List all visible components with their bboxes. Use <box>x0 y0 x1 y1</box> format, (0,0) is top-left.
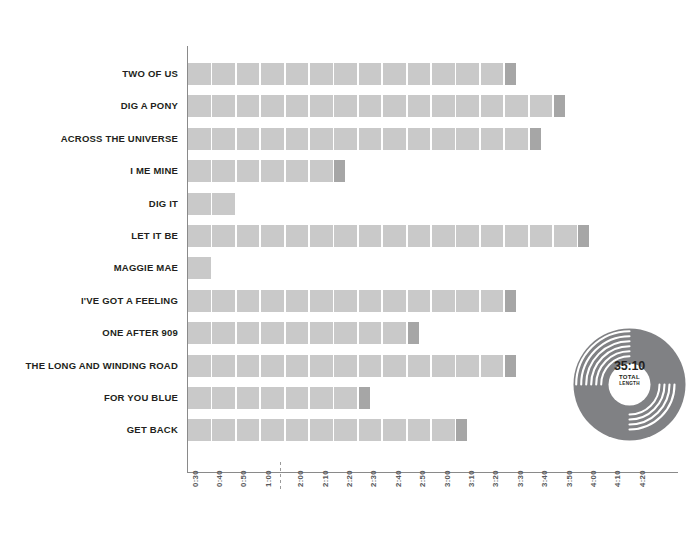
bar-segment <box>188 63 211 85</box>
bar-segment <box>310 225 333 247</box>
bar-segment <box>530 95 553 117</box>
bar-segment <box>481 290 504 312</box>
bar-segment <box>286 225 309 247</box>
bar-segment <box>456 128 479 150</box>
x-tick-label: 3:50 <box>565 477 574 487</box>
x-axis-break-marker <box>280 462 281 492</box>
category-label: DIG A PONY <box>0 95 178 117</box>
x-tick-label: 0:30 <box>191 477 200 487</box>
bar-segment <box>310 387 333 409</box>
x-tick-label: 2:40 <box>394 477 403 487</box>
bar-segment <box>188 95 211 117</box>
vinyl-center-label <box>609 364 651 406</box>
bar-segment <box>530 225 553 247</box>
bar-segment <box>505 128 528 150</box>
bar-segment <box>310 322 333 344</box>
bar-segment <box>408 355 431 377</box>
bar-segment <box>456 290 479 312</box>
bar-segment <box>286 322 309 344</box>
x-tick-label: 1:00 <box>264 477 273 487</box>
bar-segment <box>456 95 479 117</box>
bar-segment <box>212 128 235 150</box>
bar-segment <box>481 95 504 117</box>
bar-segment <box>408 290 431 312</box>
x-tick-label: 3:00 <box>443 477 452 487</box>
bar-segment <box>408 128 431 150</box>
bar-segment <box>212 225 235 247</box>
bar-segment <box>237 419 260 441</box>
chart-canvas: TWO OF USDIG A PONYACROSS THE UNIVERSEI … <box>0 0 698 536</box>
x-tick-label: 2:20 <box>345 477 354 487</box>
category-label: I'VE GOT A FEELING <box>0 290 178 312</box>
bar-segment-partial <box>554 95 565 117</box>
bar-segment <box>383 128 406 150</box>
bar-segment <box>359 225 382 247</box>
x-tick-label: 3:10 <box>467 477 476 487</box>
bar <box>188 193 237 215</box>
bar-segment <box>188 193 211 215</box>
bar-segment <box>383 95 406 117</box>
bar <box>188 355 516 377</box>
bar-segment <box>188 355 211 377</box>
bar-segment <box>286 63 309 85</box>
bar-segment <box>286 419 309 441</box>
bar-segment <box>432 419 455 441</box>
bar-segment <box>334 355 357 377</box>
bar-segment-partial <box>359 387 370 409</box>
bar-segment <box>310 63 333 85</box>
bar-segment <box>310 355 333 377</box>
bar-segment-partial <box>505 290 516 312</box>
bar-segment <box>188 128 211 150</box>
bar-segment <box>188 419 211 441</box>
bar-segment <box>408 419 431 441</box>
bar <box>188 322 419 344</box>
x-tick-label: 3:30 <box>516 477 525 487</box>
bar-segment <box>261 95 284 117</box>
bar-segment <box>383 63 406 85</box>
bar-segment <box>310 290 333 312</box>
x-tick-label: 2:10 <box>321 477 330 487</box>
bar-segment <box>237 225 260 247</box>
bar-segment <box>212 322 235 344</box>
bar-segment <box>286 290 309 312</box>
bar-segment <box>432 95 455 117</box>
x-tick-label: 0:40 <box>215 477 224 487</box>
bar <box>188 160 345 182</box>
bar-segment <box>310 419 333 441</box>
bar-segment <box>188 322 211 344</box>
x-tick-label: 4:10 <box>613 477 622 487</box>
bar-segment <box>432 355 455 377</box>
bar-segment <box>237 95 260 117</box>
bar-segment <box>261 355 284 377</box>
bar-segment <box>310 128 333 150</box>
bar-segment <box>432 290 455 312</box>
bar-segment <box>359 128 382 150</box>
bar-segment <box>359 95 382 117</box>
bar-segment <box>212 387 235 409</box>
bar-segment <box>481 63 504 85</box>
bar-segment <box>261 160 284 182</box>
bar-segment <box>408 95 431 117</box>
category-label: ONE AFTER 909 <box>0 322 178 344</box>
category-label: GET BACK <box>0 419 178 441</box>
bar-segment <box>334 128 357 150</box>
bar-segment <box>481 225 504 247</box>
bar-segment <box>334 95 357 117</box>
bar <box>188 225 589 247</box>
bar-segment-partial <box>530 128 541 150</box>
bar-segment <box>237 290 260 312</box>
bar <box>188 290 516 312</box>
bar-segment <box>237 322 260 344</box>
bar-segment-partial <box>456 419 467 441</box>
bar-segment <box>261 63 284 85</box>
bar-segment-partial <box>505 355 516 377</box>
bar-segment <box>383 290 406 312</box>
bar <box>188 257 212 279</box>
bar-segment <box>212 160 235 182</box>
bar-segment <box>334 290 357 312</box>
bar-segment-partial <box>334 160 345 182</box>
bar <box>188 95 565 117</box>
bar-segment <box>286 95 309 117</box>
x-tick-label: 2:00 <box>296 477 305 487</box>
bar-segment <box>334 419 357 441</box>
